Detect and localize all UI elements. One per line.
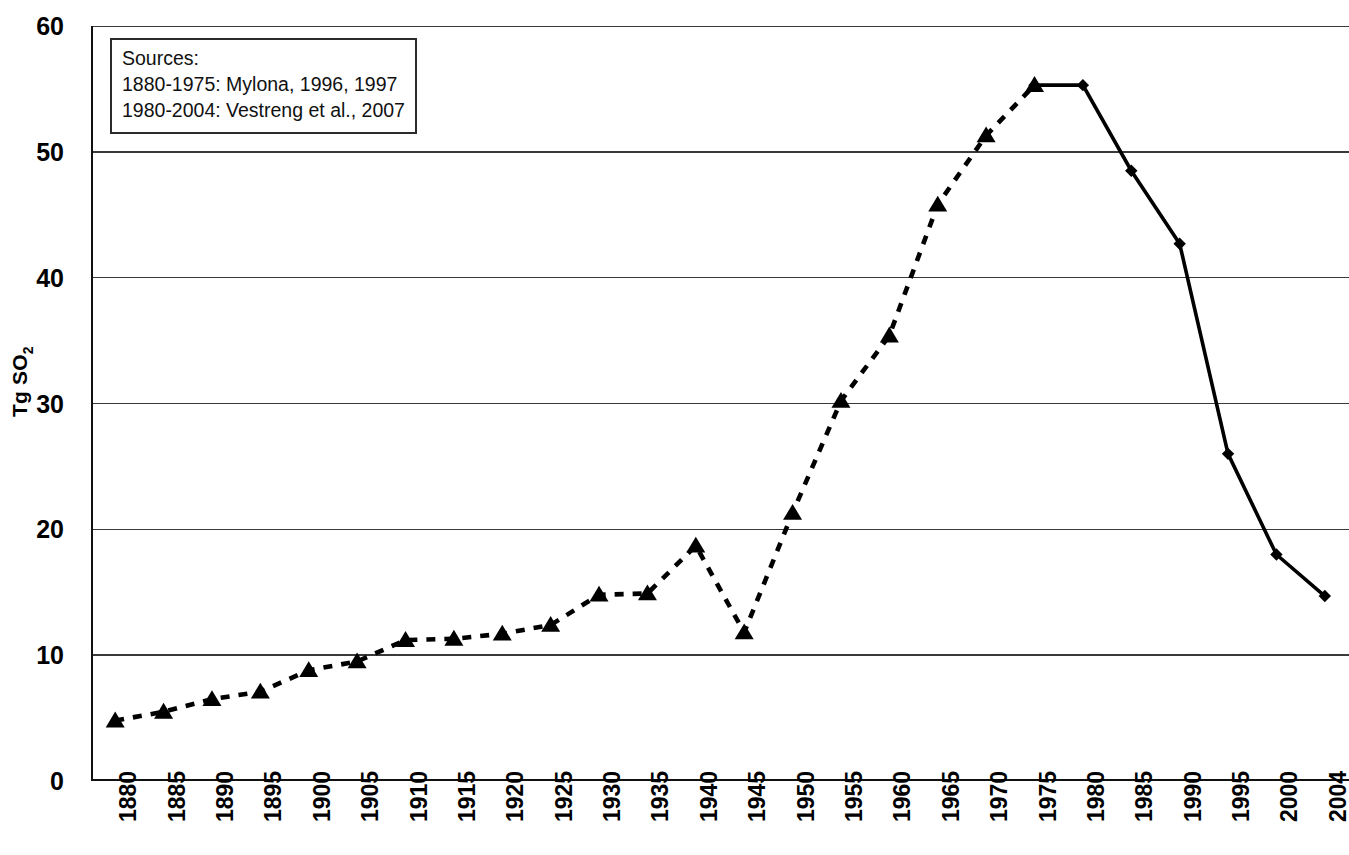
x-tick-label-1935: 1935 — [647, 758, 674, 822]
y-tick-label-50: 50 — [16, 137, 64, 166]
y-axis-title: Tg SO2 — [8, 322, 35, 442]
x-tick-label-1895: 1895 — [260, 758, 287, 822]
series-line-1 — [1035, 85, 1325, 596]
sources-annotation-box: Sources: 1880-1975: Mylona, 1996, 1997 1… — [110, 38, 417, 134]
x-tick-label-1985: 1985 — [1131, 758, 1158, 822]
data-point-marker — [251, 683, 270, 699]
data-point-marker — [686, 537, 705, 553]
data-point-marker — [1222, 448, 1234, 460]
y-tick-label-30: 30 — [16, 389, 64, 418]
x-tick-label-1955: 1955 — [841, 758, 868, 822]
x-tick-label-1910: 1910 — [406, 758, 433, 822]
x-axis-tick-labels: 1880188518901895190019051910191519201925… — [91, 790, 1349, 855]
x-tick-label-1915: 1915 — [454, 758, 481, 822]
x-tick-label-1975: 1975 — [1035, 758, 1062, 822]
sources-line-1: 1880-1975: Mylona, 1996, 1997 — [122, 72, 405, 98]
x-tick-label-1990: 1990 — [1180, 758, 1207, 822]
y-tick-label-0: 0 — [16, 767, 64, 796]
x-tick-label-1880: 1880 — [115, 758, 142, 822]
x-tick-label-1965: 1965 — [938, 758, 965, 822]
data-point-marker — [977, 126, 996, 142]
x-tick-label-1885: 1885 — [164, 758, 191, 822]
x-tick-label-1980: 1980 — [1083, 758, 1110, 822]
data-point-marker — [831, 392, 850, 408]
x-tick-label-1945: 1945 — [744, 758, 771, 822]
plot-area — [91, 26, 1349, 781]
y-tick-label-60: 60 — [16, 12, 64, 41]
x-tick-label-1920: 1920 — [502, 758, 529, 822]
data-point-marker — [928, 196, 947, 212]
data-point-marker — [493, 625, 512, 641]
sulphur-emissions-chart: Tg SO2 0102030405060 1880188518901895190… — [0, 0, 1349, 855]
x-tick-label-1930: 1930 — [599, 758, 626, 822]
x-tick-label-1940: 1940 — [696, 758, 723, 822]
y-tick-label-40: 40 — [16, 263, 64, 292]
data-point-marker — [202, 690, 221, 706]
data-point-marker — [783, 504, 802, 520]
data-point-marker — [735, 623, 754, 639]
data-point-marker — [299, 661, 318, 677]
data-point-marker — [880, 327, 899, 343]
x-tick-label-1970: 1970 — [986, 758, 1013, 822]
x-tick-label-1905: 1905 — [357, 758, 384, 822]
x-tick-label-1890: 1890 — [212, 758, 239, 822]
y-tick-label-10: 10 — [16, 641, 64, 670]
y-tick-label-20: 20 — [16, 515, 64, 544]
x-tick-label-1960: 1960 — [889, 758, 916, 822]
x-tick-label-1900: 1900 — [309, 758, 336, 822]
sources-line-2: 1980-2004: Vestreng et al., 2007 — [122, 98, 405, 124]
data-point-marker — [590, 586, 609, 602]
x-tick-label-2004: 2004 — [1325, 758, 1349, 822]
x-tick-label-1995: 1995 — [1228, 758, 1255, 822]
x-tick-label-1950: 1950 — [793, 758, 820, 822]
x-tick-label-2000: 2000 — [1276, 758, 1303, 822]
sources-heading: Sources: — [122, 46, 405, 72]
x-tick-label-1925: 1925 — [551, 758, 578, 822]
plot-svg — [91, 26, 1349, 781]
